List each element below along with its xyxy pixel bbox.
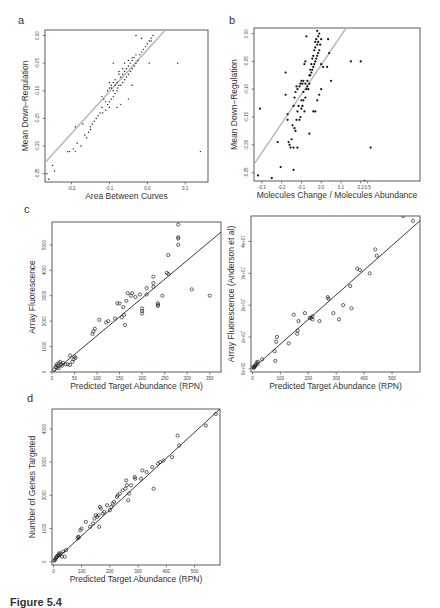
data-point [139,54,140,55]
regression-line [52,232,221,373]
data-point [368,272,371,275]
x-axis-title: Molecules Change / Molecules Abundance [257,190,418,200]
data-point [109,87,110,88]
data-point [116,90,117,91]
data-point [68,363,71,366]
data-point [295,85,297,87]
data-point [310,63,312,65]
data-point [318,319,321,322]
data-point [116,107,117,108]
data-point [327,38,329,40]
x-axis-title: Area Between Curves [85,191,168,201]
y-tick-label: 2e+07 [241,298,246,311]
data-point [299,83,301,85]
data-point [134,295,137,298]
y-axis-title: Number of Genes Targeted [27,436,37,539]
data-point [75,151,76,152]
data-point [297,105,299,107]
y-tick-label: 3000 [42,457,47,468]
data-point [98,318,101,321]
y-tick-label: 1000 [42,341,47,352]
data-point [316,30,318,32]
y-tick-label: 5000 [42,239,47,250]
data-point [296,110,298,112]
y-tick-label: -0.10 [244,84,249,95]
data-point [114,93,115,94]
data-point [126,68,127,69]
data-point [320,88,322,90]
data-point [84,134,85,135]
data-point [190,288,193,291]
data-point [177,243,180,246]
data-point [350,60,352,62]
data-point [360,60,362,62]
data-point [120,104,121,105]
data-point [305,35,307,37]
y-tick-label: 2000 [42,316,47,327]
data-point [133,65,134,66]
data-point [300,80,302,82]
data-point [271,177,273,179]
data-point [126,76,127,77]
y-tick-label: -0.10 [35,85,40,96]
data-point [109,82,110,83]
data-point [308,74,310,76]
data-point [128,98,129,99]
data-point [257,174,259,176]
y-axis-title: Array Fluorescence (Anderson et al) [226,226,236,363]
data-point [124,71,125,72]
data-point [311,58,313,60]
data-point [313,63,315,65]
data-point [301,105,303,107]
data-point [109,101,110,102]
data-point [280,166,282,168]
y-tick-label: 0 [42,560,47,563]
data-point [314,60,316,62]
data-point [149,40,150,41]
data-point [82,123,83,124]
y-tick-label: 3e+07 [241,266,246,279]
data-point [138,293,141,296]
data-point [152,35,153,36]
data-point [303,63,305,65]
data-point [301,83,303,85]
data-point [130,71,131,72]
data-point [130,62,131,63]
data-point [322,66,324,68]
figure-canvas: -0.2-0.10.00.10.00-0.05-0.10-0.15-0.20-0… [0,0,440,608]
data-point [133,57,134,58]
regression-line [252,221,420,369]
data-point [118,74,119,75]
data-point [275,335,278,338]
x-axis-title: Predicted Target Abundance (RPN) [70,381,203,391]
data-point [113,82,114,83]
data-point [294,91,296,93]
data-point [80,145,81,146]
data-point [312,66,314,68]
y-axis-title: Mean Down–Regulation [20,60,30,151]
y-tick-label: 4e+07 [241,235,246,248]
data-point [274,359,277,362]
data-point [131,292,134,295]
data-point [312,110,314,112]
data-point [125,479,128,482]
data-point [120,85,121,86]
data-point [411,219,414,222]
data-point [147,43,148,44]
data-point [308,133,310,135]
data-point [93,327,96,330]
data-point [294,130,296,132]
data-point [120,76,121,77]
data-point [299,116,301,118]
y-axis-title: Array Fluorescence [27,260,37,334]
data-point [128,65,129,66]
y-tick-label: -0.05 [35,58,40,69]
data-point [288,144,290,146]
data-point [286,113,288,115]
data-point [314,46,316,48]
data-point [314,41,316,43]
data-point [304,96,306,98]
data-point [318,32,320,34]
data-point [123,313,126,316]
data-point [107,104,108,105]
